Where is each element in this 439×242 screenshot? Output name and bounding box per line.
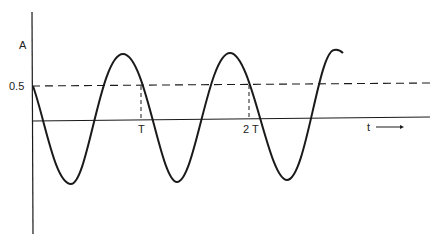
y-ref-label: 0.5 — [9, 80, 24, 92]
sine-wave — [33, 50, 343, 184]
t-axis — [32, 117, 430, 121]
x-axis-label: t — [367, 121, 370, 133]
y-axis — [32, 12, 33, 234]
oscillation-diagram: A 0.5 T 2 T t — [0, 0, 439, 242]
t-arrow-head-icon — [400, 125, 404, 129]
y-axis-label: A — [19, 39, 27, 51]
tick-label-T: T — [138, 123, 145, 135]
tick-label-2T: 2 T — [243, 123, 259, 135]
reference-line-0-5 — [32, 83, 430, 86]
